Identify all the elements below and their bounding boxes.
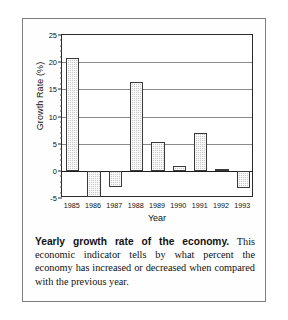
y-minor-tick [60, 56, 63, 57]
bar [173, 166, 186, 170]
bar [87, 171, 100, 197]
y-minor-tick [60, 67, 63, 68]
y-tick-label: 20 [49, 58, 57, 67]
y-tick-mark [58, 35, 62, 36]
x-tick-label: 1990 [170, 201, 186, 210]
x-tick-label: 1986 [85, 201, 101, 210]
y-minor-tick [60, 138, 63, 139]
y-tick-label: 15 [49, 85, 57, 94]
x-tick-label: 1992 [213, 201, 229, 210]
y-tick-mark [58, 116, 62, 117]
y-minor-tick [60, 149, 63, 150]
y-minor-tick [60, 192, 63, 193]
y-tick-label: 5 [53, 139, 57, 148]
y-tick-label: 25 [49, 31, 57, 40]
x-tick-label: 1991 [192, 201, 208, 210]
y-minor-tick [60, 45, 63, 46]
y-tick-label: 10 [49, 112, 57, 121]
y-tick-label: -5 [50, 194, 57, 203]
y-minor-tick [60, 73, 63, 74]
y-axis-label: Growth Rate (%) [35, 41, 45, 151]
y-minor-tick [60, 94, 63, 95]
y-minor-tick [60, 83, 63, 84]
y-minor-tick [60, 78, 63, 79]
y-tick-mark [58, 89, 62, 90]
y-tick-mark [58, 143, 62, 144]
bar-chart: Growth Rate (%) 2520151050-5 19851986198… [23, 19, 267, 221]
y-minor-tick [60, 181, 63, 182]
bar [66, 58, 79, 171]
bar [130, 82, 143, 171]
x-tick-label: 1988 [128, 201, 144, 210]
x-tick-label: 1989 [149, 201, 165, 210]
y-minor-tick [60, 100, 63, 101]
y-tick-mark [58, 198, 62, 199]
y-minor-tick [60, 51, 63, 52]
y-minor-tick [60, 121, 63, 122]
y-tick-mark [58, 62, 62, 63]
y-minor-tick [60, 111, 63, 112]
y-tick-label: 0 [53, 166, 57, 175]
bar [109, 171, 122, 187]
x-tick-label: 1993 [234, 201, 250, 210]
bar [151, 142, 164, 171]
gridline [62, 89, 252, 90]
y-minor-tick [60, 187, 63, 188]
y-tick-mark [58, 170, 62, 171]
bar [194, 133, 207, 170]
y-minor-tick [60, 132, 63, 133]
x-tick-label: 1985 [64, 201, 80, 210]
y-minor-tick [60, 176, 63, 177]
x-tick-label: 1987 [106, 201, 122, 210]
y-minor-tick [60, 159, 63, 160]
figure-panel: Growth Rate (%) 2520151050-5 19851986198… [22, 18, 266, 302]
caption-lead: Yearly growth rate of the economy. [35, 236, 229, 247]
bar [237, 171, 250, 188]
y-minor-tick [60, 40, 63, 41]
x-axis-label: Year [61, 213, 253, 223]
y-minor-tick [60, 165, 63, 166]
y-minor-tick [60, 105, 63, 106]
y-minor-tick [60, 127, 63, 128]
gridline [62, 62, 252, 63]
bar [215, 169, 228, 171]
plot-area: 2520151050-5 [61, 34, 253, 197]
gridline [62, 117, 252, 118]
y-minor-tick [60, 154, 63, 155]
figure-caption: Yearly growth rate of the economy. This … [35, 235, 255, 288]
